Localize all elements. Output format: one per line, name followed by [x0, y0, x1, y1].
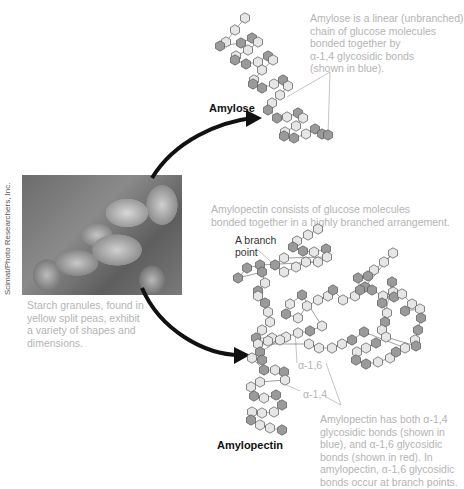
arrow-to-amylose — [152, 110, 262, 178]
amylopectin-chain — [234, 224, 426, 435]
arrow-to-amylopectin — [142, 288, 250, 364]
